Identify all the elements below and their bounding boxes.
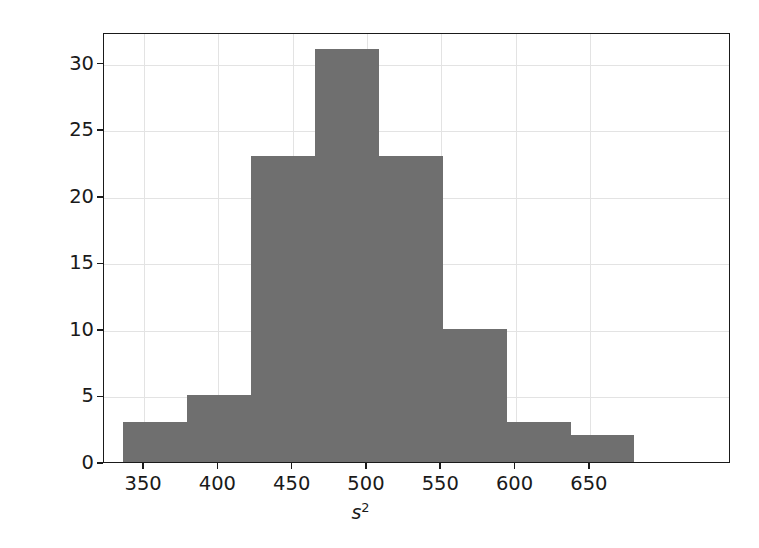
x-tick-label: 400 xyxy=(177,474,257,494)
y-axis: 051015202530 xyxy=(34,0,94,548)
x-tick-label: 650 xyxy=(549,474,629,494)
x-tick-label: 600 xyxy=(475,474,555,494)
x-tick-mark xyxy=(217,463,219,469)
gridline-horizontal xyxy=(104,65,729,66)
histogram-bar xyxy=(251,156,315,462)
y-tick-label: 5 xyxy=(44,386,94,406)
histogram-bar xyxy=(507,422,571,462)
x-tick-mark xyxy=(142,463,144,469)
x-tick-mark xyxy=(514,463,516,469)
gridline-vertical xyxy=(590,34,591,462)
histogram-bar xyxy=(443,329,507,462)
x-tick-label: 500 xyxy=(326,474,406,494)
plot-area xyxy=(103,33,730,463)
x-tick-label: 550 xyxy=(400,474,480,494)
y-tick-mark xyxy=(97,63,103,65)
y-tick-mark xyxy=(97,462,103,464)
histogram-bar xyxy=(123,422,187,462)
y-tick-mark xyxy=(97,196,103,198)
gridline-vertical xyxy=(516,34,517,462)
y-tick-label: 20 xyxy=(44,187,94,207)
y-tick-mark xyxy=(97,329,103,331)
y-tick-label: 15 xyxy=(44,253,94,273)
histogram-bar xyxy=(571,435,635,462)
x-axis-label: s2 xyxy=(0,500,740,523)
y-tick-mark xyxy=(97,396,103,398)
histogram-bar xyxy=(379,156,443,462)
y-tick-label: 0 xyxy=(44,453,94,473)
histogram-bar xyxy=(315,49,379,462)
histogram-figure: 051015202530 s2 350400450500550600650 xyxy=(0,0,759,548)
y-tick-label: 10 xyxy=(44,320,94,340)
x-tick-label: 350 xyxy=(103,474,183,494)
gridline-vertical xyxy=(144,34,145,462)
x-axis-label-base: s xyxy=(351,501,361,523)
gridline-horizontal xyxy=(104,131,729,132)
x-tick-label: 450 xyxy=(252,474,332,494)
y-tick-mark xyxy=(97,129,103,131)
histogram-bar xyxy=(187,395,251,462)
x-tick-mark xyxy=(588,463,590,469)
x-tick-mark xyxy=(291,463,293,469)
y-tick-label: 30 xyxy=(44,54,94,74)
x-tick-mark xyxy=(365,463,367,469)
x-tick-mark xyxy=(439,463,441,469)
y-tick-mark xyxy=(97,263,103,265)
y-tick-label: 25 xyxy=(44,120,94,140)
x-axis-label-exponent: 2 xyxy=(361,500,369,515)
